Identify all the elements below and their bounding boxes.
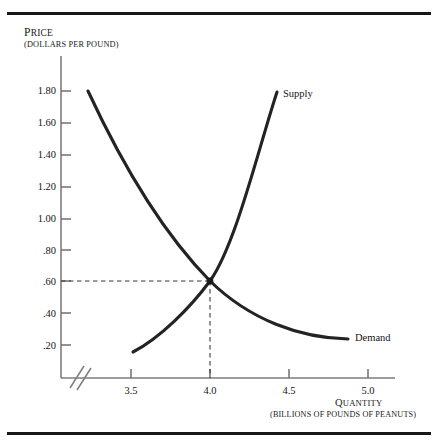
y-axis-ticks [61, 91, 71, 345]
demand-curve [88, 91, 348, 339]
plot-svg [0, 0, 438, 444]
equilibrium-point-marker [207, 278, 214, 285]
x-axis-ticks [131, 369, 368, 378]
figure-container: PRICE (DOLLARS PER POUND) QUANTITY (BILL… [0, 0, 438, 444]
